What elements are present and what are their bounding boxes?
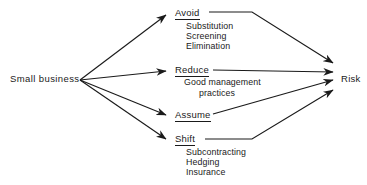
edge-reduce-to-risk	[213, 70, 333, 72]
list-item: Hedging	[186, 158, 219, 167]
list-item: Screening	[186, 32, 227, 41]
edge-smallbusiness-to-reduce	[80, 71, 166, 80]
strategy-node-avoid: Avoid	[175, 8, 200, 20]
list-item: Elimination	[186, 42, 230, 51]
source-node-small-business: Small business	[10, 74, 80, 84]
diagram-connector-layer	[0, 0, 367, 185]
list-item: Subcontracting	[186, 148, 246, 157]
edge-avoid-to-risk	[209, 12, 333, 63]
list-item: Insurance	[186, 168, 226, 177]
risk-management-diagram: Small business Avoid Substitution Screen…	[0, 0, 367, 185]
list-item: Substitution	[186, 22, 233, 31]
edge-smallbusiness-to-avoid	[80, 15, 166, 80]
strategy-node-assume: Assume	[175, 110, 211, 122]
list-item: Good management	[184, 78, 261, 87]
strategy-node-reduce: Reduce	[175, 65, 209, 77]
target-node-risk: Risk	[341, 74, 361, 84]
strategy-node-shift: Shift	[175, 134, 195, 146]
list-item: practices	[199, 89, 235, 98]
